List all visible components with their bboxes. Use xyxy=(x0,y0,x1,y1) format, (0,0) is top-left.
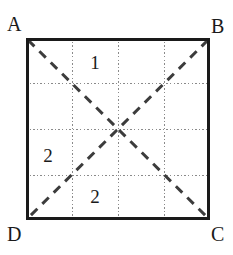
vertex-label-b: B xyxy=(211,16,224,36)
region-label-2-bottom: 2 xyxy=(90,187,100,206)
vertex-label-c: C xyxy=(211,224,224,244)
region-label-1: 1 xyxy=(90,53,100,72)
figure-canvas xyxy=(0,0,233,255)
region-label-2-left: 2 xyxy=(43,146,53,165)
geometry-figure: A B C D 1 2 2 xyxy=(0,0,233,255)
vertex-label-a: A xyxy=(7,14,21,34)
vertex-label-d: D xyxy=(7,224,21,244)
